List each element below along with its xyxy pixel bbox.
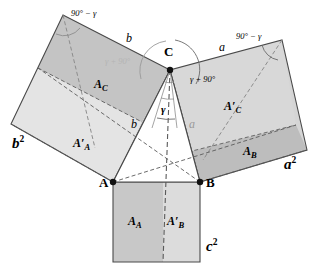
vertex-dot-B: [197, 179, 203, 185]
label-area-A-A: AA: [128, 215, 142, 230]
label-angle-90-minus-gamma-left: 90° − γ: [71, 9, 96, 18]
label-area-A-prime-B-base: A: [167, 214, 175, 228]
label-a-squared-exp: 2: [292, 155, 297, 165]
label-area-A-prime-B: A′B: [167, 215, 184, 230]
label-side-a-lower: a: [189, 118, 195, 130]
vertex-label-C: C: [164, 45, 173, 58]
label-area-A-prime-A-base: A: [73, 136, 81, 150]
label-b-squared-base: b: [12, 135, 20, 151]
label-area-A-B: AB: [243, 145, 257, 160]
label-area-A-C-base: A: [94, 77, 102, 91]
vertex-dot-C: [167, 67, 173, 73]
label-c-squared-exp: 2: [213, 237, 218, 247]
vertex-label-B: B: [206, 176, 215, 189]
label-area-A-prime-C-sub: C: [235, 105, 241, 115]
label-area-A-B-base: A: [243, 144, 251, 158]
label-angle-gamma: γ: [161, 104, 166, 115]
label-angle-90-minus-gamma-right: 90° − γ: [236, 32, 261, 41]
label-area-A-prime-A-sub: A: [84, 142, 90, 152]
label-b-squared: b2: [12, 135, 24, 151]
label-c-squared: c2: [206, 238, 217, 254]
pythagoras-dissection-figure: A B C b2 a2 c2 AC A′C A′A AB AA A′B b b …: [0, 0, 317, 272]
geometry-canvas: [0, 0, 317, 272]
label-side-b-lower: b: [131, 118, 137, 130]
label-a-squared-base: a: [284, 156, 292, 172]
label-c-squared-base: c: [206, 238, 213, 254]
label-area-A-B-sub: B: [251, 150, 257, 160]
label-side-a-top: a: [219, 41, 225, 53]
label-side-b-top: b: [126, 32, 132, 44]
vertex-label-A: A: [99, 176, 108, 189]
label-area-A-prime-B-sub: B: [178, 220, 184, 230]
label-area-A-A-sub: A: [136, 220, 142, 230]
label-a-squared: a2: [284, 156, 296, 172]
label-area-A-prime-C-base: A: [224, 99, 232, 113]
vertex-dot-A: [110, 179, 116, 185]
label-area-A-prime-C: A′C: [224, 100, 241, 115]
label-area-A-A-base: A: [128, 214, 136, 228]
label-angle-gamma-plus-90-right: γ + 90°: [190, 75, 215, 84]
label-area-A-prime-A: A′A: [73, 137, 90, 152]
label-b-squared-exp: 2: [20, 134, 25, 144]
label-area-A-C: AC: [94, 78, 108, 93]
label-area-A-C-sub: C: [102, 83, 108, 93]
label-angle-gamma-plus-90-left: γ + 90°: [105, 57, 130, 66]
